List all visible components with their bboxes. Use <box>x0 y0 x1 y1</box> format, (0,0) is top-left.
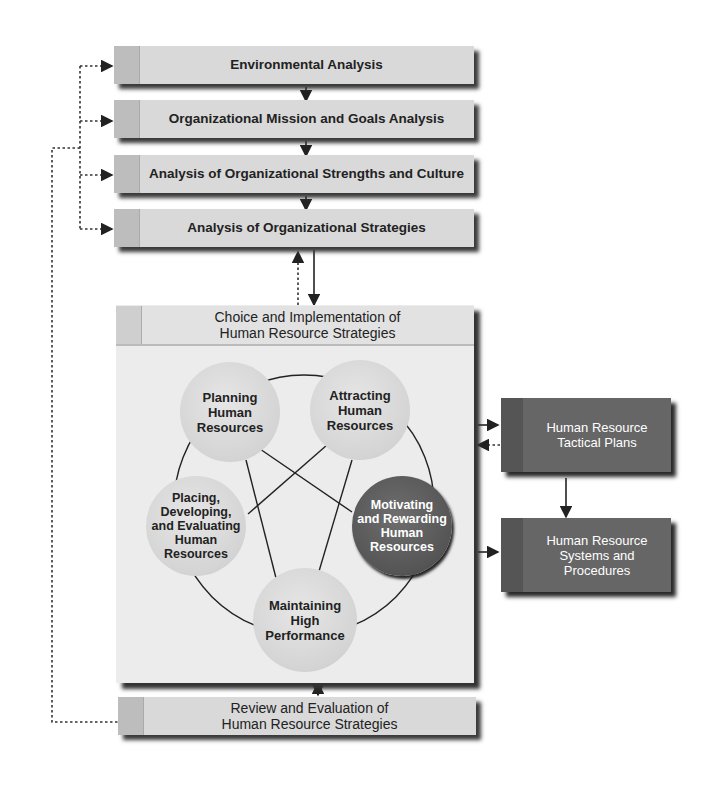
box-tab <box>501 398 523 472</box>
line: Motivating <box>371 498 434 512</box>
activity-attracting: AttractingHumanResources <box>310 360 410 460</box>
line: Human <box>208 405 252 420</box>
review-line2: Human Resource Strategies <box>222 716 398 732</box>
review-line1: Review and Evaluation of <box>231 700 389 716</box>
output-tactical-plans: Human ResourceTactical Plans <box>501 398 671 472</box>
line: Human Resource <box>546 420 647 435</box>
review-evaluation-bar: Review and Evaluation ofHuman Resource S… <box>118 697 476 735</box>
line: Planning <box>203 390 258 405</box>
line: Developing, <box>161 505 232 519</box>
line: Resources <box>327 418 393 433</box>
line: and Rewarding <box>357 512 447 526</box>
line: Human Resource <box>546 533 647 548</box>
line: Procedures <box>564 563 630 578</box>
activity-planning: PlanningHumanResources <box>180 362 280 462</box>
line: Maintaining <box>269 598 341 613</box>
line: Human <box>175 533 217 547</box>
box-tab <box>501 518 523 592</box>
line: High <box>291 613 320 628</box>
activity-placing-developing-evaluating: Placing,Developing,and EvaluatingHumanRe… <box>146 476 246 576</box>
line: Systems and <box>559 548 634 563</box>
line: Resources <box>197 420 263 435</box>
activity-maintaining-performance: MaintainingHighPerformance <box>253 568 357 672</box>
line: Resources <box>370 540 434 554</box>
line: Human <box>338 403 382 418</box>
line: Human <box>381 526 423 540</box>
line: and Evaluating <box>152 519 241 533</box>
line: Placing, <box>172 491 220 505</box>
line: Attracting <box>329 388 390 403</box>
line: Resources <box>164 547 228 561</box>
line: Tactical Plans <box>557 435 636 450</box>
line: Performance <box>265 628 344 643</box>
bar-tab <box>118 697 144 735</box>
output-systems-procedures: Human ResourceSystems andProcedures <box>501 518 671 592</box>
activity-motivating-rewarding: Motivatingand RewardingHumanResources <box>352 476 452 576</box>
